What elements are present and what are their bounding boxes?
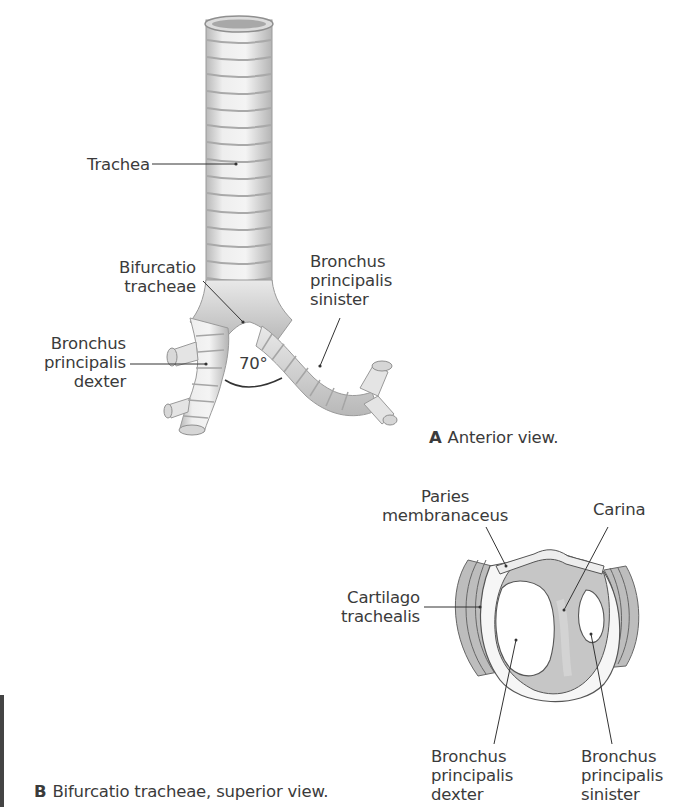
caption-letter: A — [429, 428, 442, 447]
label-line: Bronchus — [310, 252, 430, 271]
label-bifurcatio-tracheae: Bifurcatio tracheae — [60, 258, 196, 296]
label-line: Cartilago — [320, 588, 420, 607]
caption-b: BBifurcatio tracheae, superior view. — [34, 782, 328, 801]
label-line: principalis — [431, 766, 531, 785]
label-line: principalis — [20, 353, 126, 372]
label-line: sinister — [581, 785, 678, 804]
angle-arc — [225, 378, 282, 387]
trachea-tube — [205, 16, 273, 290]
label-paries-membranaceus: Paries membranaceus — [380, 487, 510, 525]
label-line: principalis — [310, 271, 430, 290]
label-line: dexter — [431, 785, 531, 804]
label-angle: 70° — [239, 354, 268, 373]
caption-a: AAnterior view. — [429, 428, 558, 447]
label-trachea: Trachea — [60, 155, 150, 174]
label-bronchus-principalis-sinister-a: Bronchus principalis sinister — [310, 252, 430, 309]
label-line: trachealis — [320, 607, 420, 626]
label-line: Bronchus — [431, 747, 531, 766]
label-bronchus-principalis-dexter-b: Bronchus principalis dexter — [431, 747, 531, 804]
caption-letter: B — [34, 782, 46, 801]
label-line: Paries — [380, 487, 510, 506]
label-line: Bronchus — [581, 747, 678, 766]
bifurcation-superior-illustration — [455, 550, 638, 702]
page-edge-bar — [0, 695, 4, 807]
label-cartilago-trachealis: Cartilago trachealis — [320, 588, 420, 626]
label-line: dexter — [20, 372, 126, 391]
label-line: Bifurcatio — [60, 258, 196, 277]
label-line: tracheae — [60, 277, 196, 296]
label-bronchus-principalis-sinister-b: Bronchus principalis sinister — [581, 747, 678, 804]
label-line: sinister — [310, 290, 430, 309]
bronchus-sinister — [256, 326, 378, 416]
label-line: Bronchus — [20, 334, 126, 353]
label-carina: Carina — [593, 500, 645, 519]
label-bronchus-principalis-dexter-a: Bronchus principalis dexter — [20, 334, 126, 391]
label-line: principalis — [581, 766, 678, 785]
caption-text: Bifurcatio tracheae, superior view. — [52, 782, 328, 801]
label-line: membranaceus — [380, 506, 510, 525]
trachea-anterior-illustration — [0, 0, 678, 807]
caption-text: Anterior view. — [448, 428, 559, 447]
